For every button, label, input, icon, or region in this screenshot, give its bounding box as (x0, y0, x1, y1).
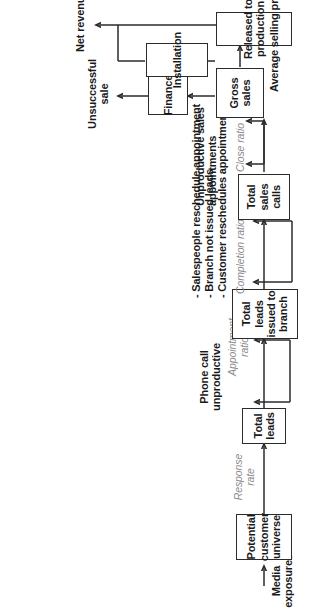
diagram-canvas: Media exposures Potential customer unive… (0, 0, 320, 612)
ratio-response-rate: Response rate (232, 446, 256, 508)
node-label: Released to production (242, 0, 267, 59)
node-label: Gross sales (228, 77, 253, 108)
output-label-average-selling-price: Average selling price (268, 0, 280, 92)
loss-label-phone-call-unproductive: Phone call unproductive (198, 334, 223, 420)
node-label: Total leads issued to branch (240, 291, 290, 338)
loss-label-unsuccessful-sale: Unsuccessful sale (86, 52, 111, 136)
node-total-leads-issued-to-branch[interactable]: Total leads issued to branch (232, 289, 298, 339)
node-installation[interactable]: Installation (146, 43, 208, 77)
node-label: Total sales calls (245, 184, 282, 211)
node-released-to-production[interactable]: Released to production (216, 12, 292, 46)
output-label-net-revenue: Net revenue (74, 0, 86, 52)
node-gross-sales[interactable]: Gross sales (216, 68, 264, 118)
node-label: Potential customer universe (245, 513, 282, 561)
node-label: Installation (171, 32, 183, 88)
node-potential-customer-universe[interactable]: Potential customer universe (236, 514, 292, 560)
node-label: Total leads (252, 412, 277, 439)
node-total-leads[interactable]: Total leads (242, 408, 286, 444)
node-total-sales-calls[interactable]: Total sales calls (238, 174, 290, 220)
